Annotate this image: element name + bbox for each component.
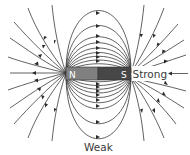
south-pole-label: S: [121, 70, 127, 80]
weak-label: Weak: [84, 141, 114, 153]
strong-label: Strong: [133, 68, 168, 80]
lower-field-loops: [66, 75, 131, 139]
north-open-field-lines: [8, 5, 66, 141]
upper-field-loops: [66, 11, 131, 73]
magnetic-field-diagram: N S Strong Weak: [0, 0, 190, 155]
north-pole-label: N: [69, 70, 76, 80]
strong-indicator-line: [168, 72, 188, 76]
bar-magnet: N S: [66, 67, 131, 80]
